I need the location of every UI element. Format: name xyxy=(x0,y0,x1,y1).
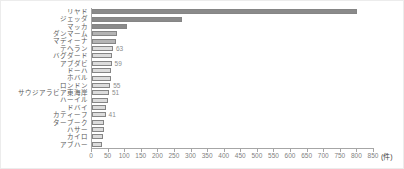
bar xyxy=(92,120,104,125)
category-label: ジェッダ xyxy=(1,15,88,22)
bar xyxy=(92,9,357,14)
bar xyxy=(92,127,104,132)
category-label: マディーナ xyxy=(1,37,88,44)
category-label: カイロ xyxy=(1,133,88,140)
category-label: アブハー xyxy=(1,141,88,148)
bar xyxy=(92,46,113,51)
bar xyxy=(92,31,117,36)
bar xyxy=(92,134,103,139)
bar xyxy=(92,112,106,117)
axis-unit-label: (件) xyxy=(381,151,393,161)
category-label: ターブーク xyxy=(1,119,88,126)
category-label: ホバル xyxy=(1,74,88,81)
bar xyxy=(92,142,102,147)
category-label: ハーイル xyxy=(1,96,88,103)
bar xyxy=(92,24,127,29)
bar-value-label: 59 xyxy=(115,60,122,67)
category-label: ドバイ xyxy=(1,104,88,111)
bar-chart: 6359555141 リヤドジェッダマッカダンマームマディーナテヘランバグダード… xyxy=(0,0,404,169)
bar xyxy=(92,76,111,81)
bar xyxy=(92,90,109,95)
category-label: バグダード xyxy=(1,52,88,59)
bar xyxy=(92,98,108,103)
category-label: マッカ xyxy=(1,23,88,30)
category-label: ハサー xyxy=(1,126,88,133)
bar-value-label: 51 xyxy=(112,89,119,96)
bar xyxy=(92,53,112,58)
bar xyxy=(92,83,110,88)
bar xyxy=(92,68,111,73)
bar-value-label: 63 xyxy=(116,45,123,52)
category-label: サウジアラビア東海岸 xyxy=(1,89,88,96)
bar-value-label: 55 xyxy=(113,82,120,89)
category-label: ドーハ xyxy=(1,67,88,74)
category-label: ロンドン xyxy=(1,82,88,89)
plot-area: 6359555141 xyxy=(91,8,374,149)
bar xyxy=(92,105,106,110)
bar xyxy=(92,17,182,22)
bar-value-label: 41 xyxy=(109,111,116,118)
category-label: カティーフ xyxy=(1,111,88,118)
bar xyxy=(92,39,116,44)
category-label: アブダビ xyxy=(1,60,88,67)
bar xyxy=(92,61,112,66)
